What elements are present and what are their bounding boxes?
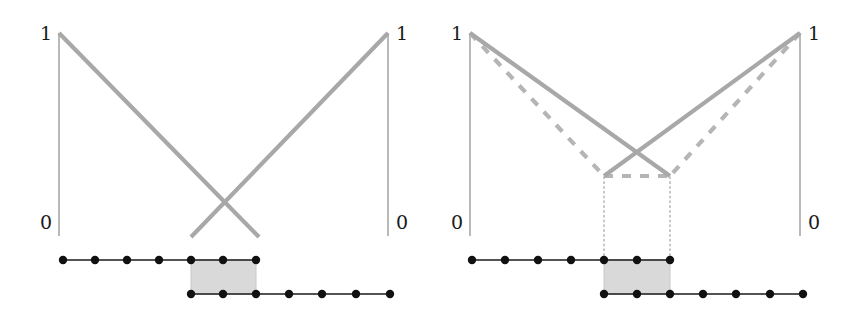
bottom-lattice-row-dot[interactable] — [600, 290, 608, 298]
bottom-lattice-row-dot[interactable] — [799, 290, 807, 298]
top-lattice-row-dot[interactable] — [123, 256, 131, 264]
top-lattice-row-dot[interactable] — [666, 256, 674, 264]
right-axis-bottom-label: 0 — [396, 213, 408, 232]
panel-left: 1 0 1 0 — [0, 0, 430, 317]
top-lattice-row-dot[interactable] — [534, 256, 542, 264]
bottom-lattice-row-dot[interactable] — [386, 290, 394, 298]
left-axis-top-label: 1 — [451, 24, 463, 43]
bottom-lattice-row-dot[interactable] — [318, 290, 326, 298]
ascending-solid-curve — [191, 33, 388, 237]
right-axis-bottom-label: 0 — [808, 213, 820, 232]
right-axis-top-label: 1 — [808, 24, 820, 43]
figure-canvas: 1 0 1 0 1 0 1 0 — [0, 0, 860, 317]
descending-solid-curve — [470, 33, 670, 176]
top-lattice-row-dot[interactable] — [155, 256, 163, 264]
panel-right-graphics — [430, 0, 860, 317]
top-lattice-row-dot[interactable] — [468, 256, 476, 264]
descending-dashed-curve — [470, 33, 604, 176]
bottom-lattice-row-dot[interactable] — [766, 290, 774, 298]
bottom-lattice-row-dot[interactable] — [352, 290, 360, 298]
bottom-lattice-row-dot[interactable] — [219, 290, 227, 298]
left-axis-top-label: 1 — [40, 24, 52, 43]
bottom-lattice-row-dot[interactable] — [187, 290, 195, 298]
left-axis-bottom-label: 0 — [451, 213, 463, 232]
right-axis-top-label: 1 — [396, 24, 408, 43]
top-lattice-row-dot[interactable] — [633, 256, 641, 264]
bottom-lattice-row-dot[interactable] — [666, 290, 674, 298]
ascending-dashed-curve — [670, 33, 800, 176]
top-lattice-row-dot[interactable] — [567, 256, 575, 264]
bottom-lattice-row-dot[interactable] — [285, 290, 293, 298]
panel-left-graphics — [0, 0, 430, 317]
ascending-solid-curve — [604, 33, 800, 176]
top-lattice-row-dot[interactable] — [59, 256, 67, 264]
bottom-lattice-row-dot[interactable] — [699, 290, 707, 298]
top-lattice-row-dot[interactable] — [91, 256, 99, 264]
shaded-region-box — [604, 260, 670, 294]
top-lattice-row-dot[interactable] — [219, 256, 227, 264]
bottom-lattice-row-dot[interactable] — [252, 290, 260, 298]
left-axis-bottom-label: 0 — [40, 213, 52, 232]
shaded-region-box — [191, 260, 256, 294]
bottom-lattice-row-dot[interactable] — [633, 290, 641, 298]
top-lattice-row-dot[interactable] — [600, 256, 608, 264]
top-lattice-row-dot[interactable] — [187, 256, 195, 264]
panel-right: 1 0 1 0 — [430, 0, 860, 317]
top-lattice-row-dot[interactable] — [501, 256, 509, 264]
top-lattice-row-dot[interactable] — [252, 256, 260, 264]
descending-solid-curve — [59, 33, 259, 237]
bottom-lattice-row-dot[interactable] — [732, 290, 740, 298]
